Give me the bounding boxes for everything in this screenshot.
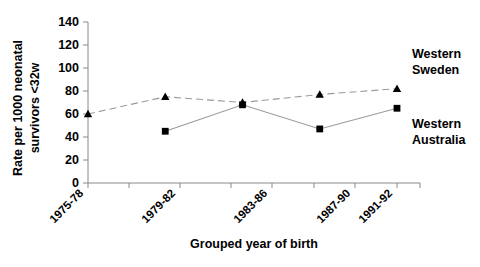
y-axis-title-line1: Rate per 1000 neonatal: [11, 40, 25, 176]
y-tick-label: 100: [58, 61, 79, 75]
y-tick-label: 80: [65, 84, 79, 98]
data-point-western-sweden-1991-92: [393, 85, 401, 92]
line-chart: Rate per 1000 neonatal survivors <32w 14…: [0, 0, 480, 267]
data-point-western-sweden-1979-82: [161, 93, 169, 100]
x-tick-label: 1975-78: [47, 187, 86, 226]
data-point-western-australia-1983-86: [239, 101, 246, 108]
legend-label-western-sweden-line1: Western: [412, 47, 461, 61]
x-tick-marks: [88, 183, 420, 188]
chart-figure: Rate per 1000 neonatal survivors <32w 14…: [0, 0, 480, 267]
legend-label-western-australia-line2: Australia: [412, 133, 467, 147]
y-axis-title-line2: survivors <32w: [28, 62, 42, 153]
y-tick-marks: [83, 22, 88, 183]
series-line-western-australia: [165, 105, 397, 131]
x-tick-label: 1991-92: [356, 187, 394, 225]
y-tick-label: 40: [65, 130, 79, 144]
x-tick-labels: 1975-78 1979-82 1983-86 1987-90 1991-92: [47, 187, 394, 226]
data-point-western-australia-1991-92: [394, 105, 401, 112]
data-point-western-australia-1979-82: [162, 128, 169, 135]
data-point-western-australia-1987-90: [316, 126, 323, 133]
y-axis-title: Rate per 1000 neonatal survivors <32w: [11, 40, 42, 176]
y-tick-label: 20: [65, 153, 79, 167]
legend-label-western-australia-line1: Western: [412, 117, 461, 131]
legend: Western Sweden Western Australia: [412, 47, 467, 147]
y-tick-labels: 140 120 100 80 60 40 20 0: [58, 15, 79, 190]
y-tick-label: 60: [65, 107, 79, 121]
x-tick-label: 1983-86: [231, 187, 269, 225]
y-tick-label: 120: [58, 38, 79, 52]
x-axis-title: Grouped year of birth: [190, 237, 318, 251]
legend-label-western-sweden-line2: Sweden: [412, 63, 459, 77]
x-tick-label: 1979-82: [139, 187, 177, 225]
x-tick-label: 1987-90: [314, 187, 352, 225]
series-layer: [84, 85, 401, 135]
y-tick-label: 140: [58, 15, 79, 29]
